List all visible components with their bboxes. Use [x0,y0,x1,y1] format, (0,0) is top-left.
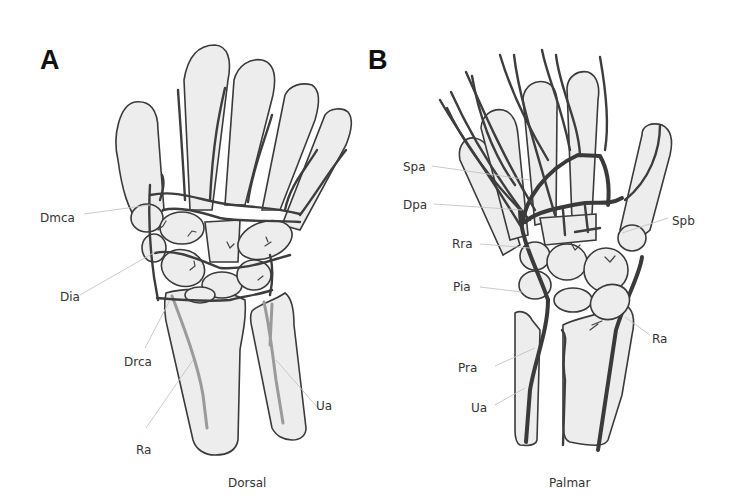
panel-b-palmar: B [368,45,695,490]
label-pia: Pia [453,280,471,294]
label-dmca: Dmca [40,211,75,225]
caption-dorsal: Dorsal [228,476,266,490]
panel-letter-b: B [368,45,388,75]
caption-palmar: Palmar [549,476,590,490]
label-spa: Spa [403,160,426,174]
panel-a-dorsal: A [40,45,351,490]
metacarpal-2-b [567,72,599,220]
leader-pia [480,287,522,292]
label-pra: Pra [458,361,477,375]
leader-dia [80,252,155,295]
wrist-vascular-diagram: A [0,0,733,501]
ulna-bone-dorsal [251,293,307,440]
metacarpal-index-a [184,45,229,210]
label-spb: Spb [672,214,695,228]
label-dpa: Dpa [403,198,427,212]
radius-bone-palmar [563,305,634,445]
panel-letter-a: A [40,45,60,75]
label-dia: Dia [60,290,80,304]
label-ua-a: Ua [316,399,332,413]
label-drca: Drca [124,355,152,369]
label-ra-b: Ra [652,332,667,346]
radius-bone-dorsal [165,289,246,455]
label-rra: Rra [452,237,473,251]
label-ua-b: Ua [471,401,487,415]
label-ra-a: Ra [136,443,151,457]
